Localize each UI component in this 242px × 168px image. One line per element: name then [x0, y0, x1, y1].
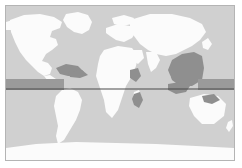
- world-map-svg: [6, 6, 234, 160]
- highlight-pacific-east-band: [6, 79, 64, 90]
- highlight-pacific-west-band: [198, 79, 234, 90]
- map-canvas: [6, 6, 234, 160]
- world-map-figure: world-map-thumbnail: [0, 0, 242, 168]
- map-frame: [5, 5, 235, 161]
